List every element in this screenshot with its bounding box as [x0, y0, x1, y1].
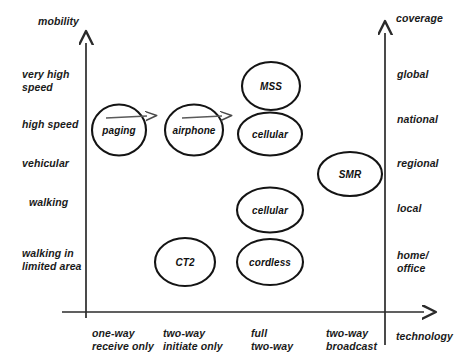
technology-axis-title: technology [396, 330, 453, 343]
technology-label-one-way-receive-only: one-way receive only [92, 327, 154, 352]
mobility-label-walking-limited-area: walking in limited area [22, 247, 82, 272]
node-label-cordless: cordless [220, 257, 320, 268]
mobility-label-walking: walking [29, 196, 68, 209]
diagram-graphics [0, 0, 471, 363]
coverage-axis-title: coverage [396, 12, 443, 25]
technology-label-full-two-way: full two-way [251, 327, 293, 352]
technology-label-two-way-broadcast: two-way broadcast [326, 327, 377, 352]
mobility-label-vehicular: vehicular [22, 157, 69, 170]
node-label-smr: SMR [300, 169, 400, 180]
diagram-canvas: mobility coverage technology very high s… [0, 0, 471, 363]
node-label-cellular-local: cellular [220, 205, 320, 216]
coverage-label-home-office: home/ office [397, 249, 428, 274]
node-label-cellular-national: cellular [220, 129, 320, 140]
airphone-trend-arrow-icon [182, 116, 222, 118]
paging-trend-arrow-icon [106, 116, 147, 118]
coverage-label-regional: regional [397, 157, 439, 170]
mobility-axis-title: mobility [38, 15, 79, 28]
node-label-mss: MSS [221, 81, 321, 92]
technology-label-two-way-initiate-only: two-way initiate only [163, 327, 223, 352]
coverage-label-local: local [397, 202, 421, 215]
mobility-label-very-high-speed: very high speed [22, 68, 70, 93]
coverage-label-global: global [397, 68, 429, 81]
coverage-label-national: national [397, 113, 438, 126]
